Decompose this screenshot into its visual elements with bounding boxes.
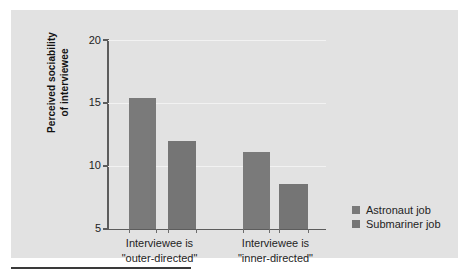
legend: Astronaut job Submariner job	[352, 203, 441, 231]
legend-label-submariner: Submariner job	[366, 219, 441, 230]
x-category-outer-line2: "outer-directed"	[122, 252, 198, 264]
legend-swatch-submariner-icon	[352, 220, 360, 228]
chart-panel: Perceived sociability of interviewee 20 …	[11, 10, 458, 258]
bar-inner-astronaut	[243, 152, 270, 229]
x-category-inner-line1: Interviewee is	[242, 237, 309, 249]
y-axis-label: Perceived sociability of interviewee	[46, 13, 71, 153]
x-category-inner-line2: "inner-directed"	[238, 252, 313, 264]
figure: Perceived sociability of interviewee 20 …	[0, 0, 472, 277]
bar-inner-submariner	[279, 184, 308, 229]
legend-label-astronaut: Astronaut job	[366, 205, 431, 216]
x-tick-mark-4	[196, 229, 197, 233]
x-tick-mark-8	[308, 229, 309, 233]
y-axis-label-line1: Perceived sociability	[46, 32, 57, 133]
bar-outer-submariner	[168, 141, 196, 229]
x-tick-mark-5	[243, 229, 244, 233]
legend-item-submariner: Submariner job	[352, 217, 441, 231]
legend-swatch-astronaut-icon	[352, 206, 360, 214]
x-tick-mark-7	[279, 229, 280, 233]
y-tick-label-10: 10	[73, 160, 101, 171]
x-tick-mark-1	[129, 229, 130, 233]
legend-item-astronaut: Astronaut job	[352, 203, 441, 217]
y-tick-label-5: 5	[73, 223, 101, 234]
x-category-label-outer: Interviewee is "outer-directed"	[102, 236, 217, 266]
y-axis-label-line2: of interviewee	[58, 48, 69, 116]
x-tick-mark-3	[168, 229, 169, 233]
gridline-20	[108, 40, 326, 41]
bar-outer-astronaut	[129, 98, 156, 229]
plot-area	[108, 40, 326, 229]
x-category-label-inner: Interviewee is "inner-directed"	[218, 236, 333, 266]
x-tick-mark-6	[269, 229, 270, 233]
y-tick-label-15: 15	[73, 97, 101, 108]
x-category-outer-line1: Interviewee is	[126, 237, 193, 249]
y-tick-label-20: 20	[73, 35, 101, 46]
x-tick-mark-2	[156, 229, 157, 233]
caption-rule	[11, 267, 191, 269]
